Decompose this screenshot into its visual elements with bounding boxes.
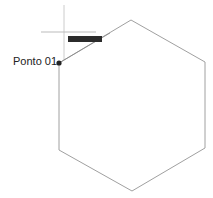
coordinate-tooltip: [68, 36, 102, 42]
canvas[interactable]: [0, 0, 213, 198]
point-marker[interactable]: [56, 60, 61, 65]
point-label: Ponto 01: [13, 55, 57, 67]
hexagon[interactable]: [59, 20, 205, 191]
